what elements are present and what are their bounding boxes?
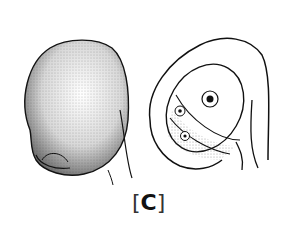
- right-ovule-drawing: [150, 38, 269, 170]
- label-letter: C: [141, 190, 157, 215]
- label-close-bracket: ]: [157, 190, 166, 215]
- left-ovule-drawing: [25, 40, 132, 185]
- figure-panel: [C]: [0, 0, 284, 233]
- label-open-bracket: [: [132, 190, 141, 215]
- figure-label: [C]: [132, 192, 165, 214]
